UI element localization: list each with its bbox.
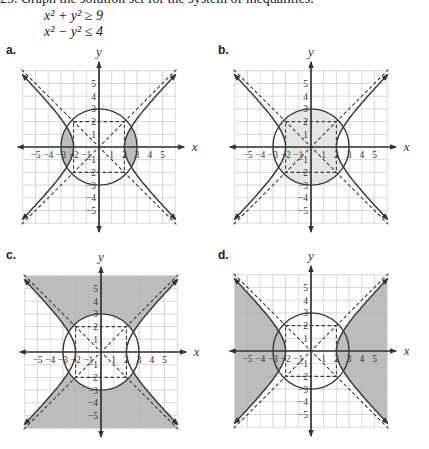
y-axis-label: y <box>306 248 314 263</box>
x-tick-label: −3 <box>268 354 278 364</box>
y-tick-label: 4 <box>303 296 308 306</box>
y-tick-label: −3 <box>298 385 308 395</box>
y-tick-label: 1 <box>303 334 308 344</box>
x-tick-label: 1 <box>321 354 326 364</box>
y-tick-label: −5 <box>298 410 308 420</box>
y-tick-label: −1 <box>298 359 308 369</box>
x-tick-label: 3 <box>347 354 352 364</box>
x-tick-label: −4 <box>255 354 265 364</box>
y-tick-label: 2 <box>303 321 308 331</box>
x-tick-label: 2 <box>334 354 339 364</box>
y-tick-label: −2 <box>298 372 308 382</box>
x-tick-label: −2 <box>281 354 291 364</box>
y-tick-label: 3 <box>303 308 308 318</box>
graph-d: xy−5−4−3−2−11234554321−1−2−3−4−5 <box>0 0 429 449</box>
x-tick-label: 4 <box>359 354 364 364</box>
x-tick-label: 5 <box>372 354 377 364</box>
x-tick-label: −5 <box>242 354 252 364</box>
x-axis-label: x <box>403 343 410 358</box>
y-tick-label: −4 <box>298 397 308 407</box>
y-tick-label: 5 <box>303 283 308 293</box>
